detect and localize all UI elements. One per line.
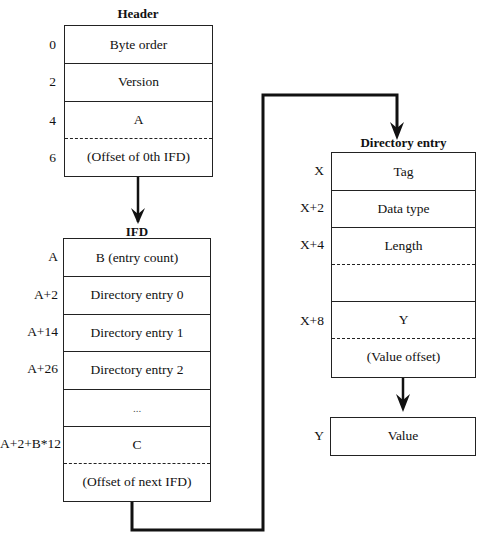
ifd-offset-c: A+2+B*12	[0, 436, 61, 452]
ifd-row-directory-entry-2: Directory entry 2	[64, 351, 210, 389]
header-box: Byte order Version A (Offset of 0th IFD)	[64, 25, 213, 177]
directory-entry-box: Tag Data type Length Y (Value offset)	[331, 152, 476, 378]
dir-offset-x8: X+8	[264, 313, 324, 329]
ifd-offset-a26: A+26	[0, 361, 58, 377]
header-title: Header	[64, 6, 212, 22]
ifd-row-directory-entry-0: Directory entry 0	[64, 276, 210, 314]
dir-row-tag: Tag	[332, 153, 475, 190]
dir-offset-x2: X+2	[264, 200, 324, 216]
header-row-byte-order: Byte order	[65, 26, 212, 63]
ifd-offset-a14: A+14	[0, 324, 58, 340]
ifd-row-directory-entry-1: Directory entry 1	[64, 314, 210, 351]
header-row-offset-0th-ifd: (Offset of 0th IFD)	[65, 138, 212, 175]
ifd-row-ellipsis: ...	[64, 389, 210, 426]
ifd-offset-a: A	[0, 249, 58, 265]
dir-row-data-type: Data type	[332, 190, 475, 227]
value-box: Value	[330, 417, 476, 456]
header-offset-2: 2	[0, 74, 56, 90]
dir-offset-x4: X+4	[264, 237, 324, 253]
ifd-box: B (entry count) Directory entry 0 Direct…	[63, 238, 211, 502]
ifd-row-entry-count: B (entry count)	[64, 239, 210, 276]
dir-row-y: Y	[332, 301, 475, 338]
header-row-a: A	[65, 101, 212, 138]
value-offset-y: Y	[264, 428, 324, 444]
dir-offset-x: X	[264, 163, 324, 179]
header-row-version: Version	[65, 63, 212, 101]
dir-row-value-offset: (Value offset)	[332, 338, 475, 375]
ifd-row-c: C	[64, 426, 210, 463]
directory-entry-title: Directory entry	[331, 135, 476, 151]
dir-row-length: Length	[332, 227, 475, 264]
header-offset-4: 4	[0, 113, 56, 129]
value-label: Value	[331, 418, 475, 454]
header-offset-0: 0	[0, 37, 56, 53]
header-offset-6: 6	[0, 150, 56, 166]
ifd-offset-a2: A+2	[0, 287, 58, 303]
dir-row-length-cont	[332, 264, 475, 301]
ifd-row-offset-next-ifd: (Offset of next IFD)	[64, 463, 210, 500]
